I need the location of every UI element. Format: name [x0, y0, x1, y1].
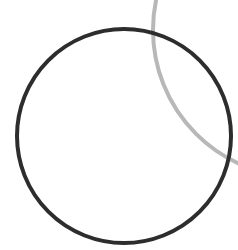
diagram-canvas	[0, 0, 238, 250]
gray-circle-arc	[153, 0, 238, 177]
